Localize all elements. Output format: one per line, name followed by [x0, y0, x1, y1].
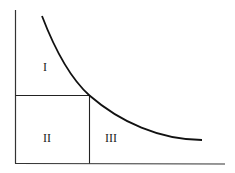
diagram-canvas: I II III: [0, 0, 235, 173]
region-label-2: II: [43, 131, 51, 145]
demand-curve: [42, 16, 202, 140]
region-label-3: III: [105, 131, 117, 145]
region-label-1: I: [43, 60, 47, 74]
x-axis: [15, 164, 225, 165]
